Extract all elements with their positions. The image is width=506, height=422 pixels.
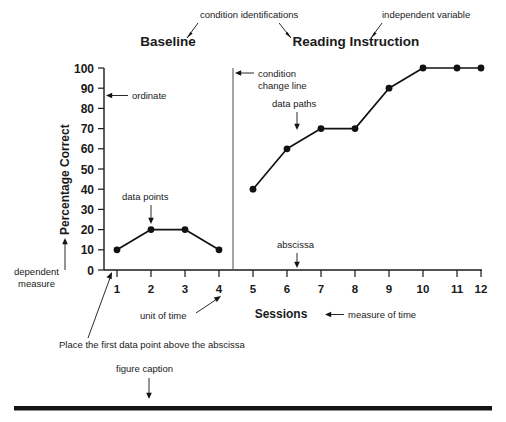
arrow-measure-of-time [325,312,344,318]
x-axis-tick-labels: 1 2 3 4 5 6 7 8 9 10 11 12 [114,283,488,295]
data-point [318,125,325,132]
data-path-baseline [117,230,219,250]
arrow-abscissa [294,253,300,268]
annotation-condition-change-line-2: change line [258,80,307,91]
arrow-figure-caption [146,378,152,399]
arrow-condition-identifications-right [279,23,291,38]
annotation-abscissa: abscissa [277,239,315,250]
x-tick-label: 8 [352,283,359,295]
x-tick-label: 12 [475,283,488,295]
annotation-ordinate: ordinate [132,90,166,101]
annotation-data-points: data points [122,191,169,202]
annotation-condition-change-line-1: condition [258,68,296,79]
x-tick-label: 2 [148,283,154,295]
x-tick-label: 1 [114,283,121,295]
x-axis-ticks [117,270,481,277]
data-point [454,65,461,72]
annotation-place-first-data-point: Place the first data point above the abs… [59,339,246,350]
annotation-dependent-measure-2: measure [18,278,55,289]
annotation-measure-of-time: measure of time [348,309,416,320]
y-tick-label: 50 [81,163,95,177]
annotation-condition-identifications: condition identifications [200,9,298,20]
annotation-independent-variable: independent variable [382,9,470,20]
arrow-data-paths [294,112,300,130]
annotation-figure-caption: figure caption [116,363,173,374]
data-point [386,85,393,92]
y-axis-tick-labels: 100 90 80 70 60 50 40 30 20 10 0 [74,62,94,278]
y-tick-label: 60 [81,142,95,156]
data-point [284,145,291,152]
data-point [478,65,485,72]
phase-label-treatment: Reading Instruction [293,34,420,49]
y-tick-label: 90 [81,82,95,96]
x-tick-label: 7 [318,283,324,295]
y-tick-label: 70 [81,122,95,136]
x-tick-label: 3 [182,283,188,295]
y-axis-ticks [98,68,104,270]
annotation-dependent-measure-1: dependent [14,266,59,277]
arrow-condition-change-line [235,70,254,76]
arrow-ordinate [106,93,128,99]
arrow-place-first-data-point [88,272,112,338]
x-tick-label: 11 [451,283,464,295]
data-point [114,246,121,253]
data-point [250,186,257,193]
data-point [352,125,359,132]
phase-label-baseline: Baseline [140,34,196,49]
y-tick-label: 40 [81,183,95,197]
x-tick-label: 9 [386,283,392,295]
arrow-unit-of-time [196,296,221,313]
data-point [148,226,155,233]
y-tick-label: 100 [74,62,94,76]
arrow-dependent-measure-up [62,238,68,270]
data-point [420,65,427,72]
annotation-unit-of-time: unit of time [140,310,186,321]
caption-rule [14,406,492,411]
x-axis-title: Sessions [255,307,308,321]
series-baseline [114,226,223,253]
data-point [182,226,189,233]
chart-canvas: condition identifications independent va… [0,0,506,422]
x-tick-label: 6 [284,283,290,295]
y-tick-label: 0 [87,264,94,278]
figure-root: condition identifications independent va… [0,0,506,422]
y-tick-label: 80 [81,102,95,116]
y-axis-title: Percentage Correct [58,124,72,235]
x-tick-label: 4 [216,283,223,295]
y-tick-label: 10 [81,243,95,257]
data-point [216,246,223,253]
arrow-data-points [148,205,154,224]
y-tick-label: 30 [81,203,95,217]
x-tick-label: 10 [417,283,430,295]
x-tick-label: 5 [250,283,257,295]
annotation-data-paths: data paths [272,98,317,109]
y-tick-label: 20 [81,223,95,237]
